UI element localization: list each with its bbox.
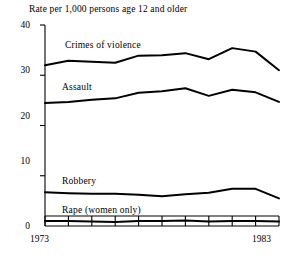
series-line-rape — [45, 220, 279, 222]
y-tick-marks — [40, 25, 45, 176]
plot-area — [0, 0, 292, 260]
series-line-crimes-of-violence — [45, 48, 279, 70]
series-line-assault — [45, 88, 279, 103]
chart-figure: Rate per 1,000 persons age 12 and older … — [0, 0, 292, 260]
series-line-robbery — [45, 189, 279, 199]
